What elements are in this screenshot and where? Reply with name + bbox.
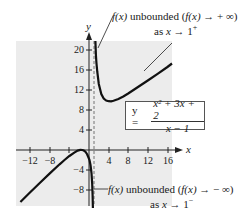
y-tick-label: −4 bbox=[73, 164, 84, 175]
y-tick-label: 4 bbox=[79, 124, 84, 135]
y-axis-label: y bbox=[85, 20, 91, 32]
x-tick-label: −8 bbox=[45, 155, 56, 166]
annotation-text: → 1 bbox=[167, 198, 189, 210]
fx-symbol: f(x) bbox=[185, 10, 200, 22]
x-tick-label: 16 bbox=[163, 155, 173, 166]
equation-box: y = x² + 3x + 2 x − 1 bbox=[125, 101, 205, 130]
x-axis-arrow-icon bbox=[175, 147, 183, 153]
equation-numerator: x² + 3x + 2 bbox=[151, 97, 204, 122]
x-tick-label: 12 bbox=[143, 155, 153, 166]
superscript: + bbox=[193, 23, 198, 32]
y-axis-arrow-icon bbox=[86, 32, 92, 40]
fx-symbol: f(x) bbox=[112, 10, 127, 22]
annotation-text: unbounded ( bbox=[127, 10, 185, 22]
y-tick-label: 12 bbox=[74, 84, 84, 95]
fx-symbol: f(x) bbox=[181, 183, 196, 195]
x-axis-label: x bbox=[185, 143, 191, 155]
y-tick-label: −8 bbox=[73, 184, 84, 195]
annotation-text: → 1 bbox=[171, 25, 193, 37]
annotation-text: as bbox=[154, 25, 166, 37]
fx-symbol: f(x) bbox=[108, 183, 123, 195]
y-tick-label: 16 bbox=[74, 64, 84, 75]
bottom-annotation: f(x) unbounded (f(x) → − ∞) as x → 1− bbox=[108, 183, 234, 210]
x-tick-label: −12 bbox=[22, 155, 38, 166]
equation-fraction: x² + 3x + 2 x − 1 bbox=[151, 97, 204, 134]
annotation-text: → + ∞) bbox=[201, 10, 238, 22]
x-tick-label: 4 bbox=[107, 155, 112, 166]
annotation-text: → − ∞) bbox=[197, 183, 234, 195]
annotation-text: unbounded ( bbox=[123, 183, 181, 195]
y-tick-label: 20 bbox=[74, 44, 84, 55]
superscript: − bbox=[189, 196, 194, 205]
equation-denominator: x − 1 bbox=[166, 122, 189, 134]
top-annotation: f(x) unbounded (f(x) → + ∞) as x → 1+ bbox=[112, 10, 238, 37]
y-tick-label: 8 bbox=[79, 104, 84, 115]
x-tick-label: 8 bbox=[126, 155, 131, 166]
annotation-text: as bbox=[150, 198, 162, 210]
equation-lhs: y = bbox=[132, 104, 146, 128]
